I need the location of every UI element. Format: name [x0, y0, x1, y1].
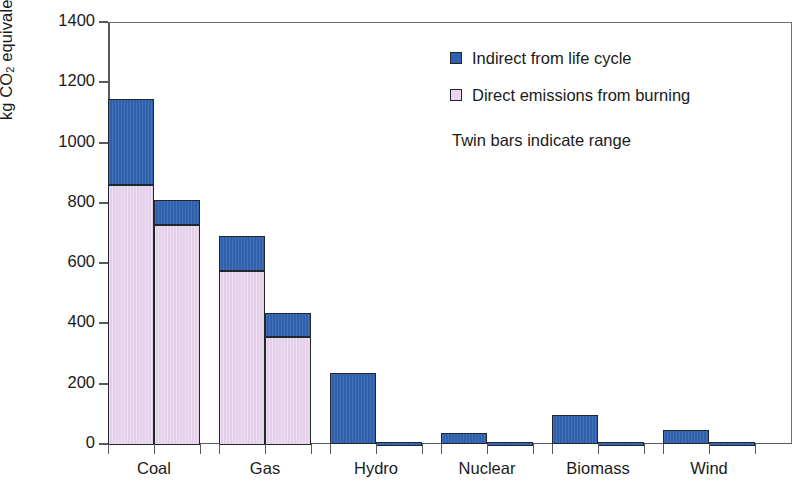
bar-segment-indirect: [265, 313, 311, 337]
bar-segment-indirect: [598, 442, 644, 446]
y-tick-label: 1400: [58, 11, 95, 30]
x-axis-label-gas: Gas: [250, 459, 280, 478]
x-tick-mark-icon: [598, 444, 599, 454]
x-axis-label-wind: Wind: [690, 459, 728, 478]
y-axis-title-mid: equivalent MWh: [0, 0, 15, 67]
y-tick-label: 400: [67, 312, 95, 331]
legend-item-direct: Direct emissions from burning: [450, 85, 690, 105]
legend-swatch-direct-icon: [450, 89, 462, 101]
y-tick-mark-icon: [99, 142, 108, 144]
x-tick-mark-icon: [709, 444, 710, 454]
bar-segment-indirect: [108, 99, 154, 185]
bar-segment-indirect: [663, 430, 709, 444]
x-axis-label-coal: Coal: [137, 459, 171, 478]
x-tick-mark-icon: [487, 444, 488, 454]
x-tick-mark-icon: [663, 444, 664, 454]
bar-segment-indirect: [154, 200, 200, 226]
x-tick-mark-icon: [154, 444, 155, 454]
x-tick-mark-icon: [330, 444, 331, 454]
x-tick-mark-icon: [552, 444, 553, 454]
x-tick-mark-icon: [265, 444, 266, 454]
bar-segment-indirect: [487, 442, 533, 446]
x-tick-mark-icon: [441, 444, 442, 454]
y-tick-label: 800: [67, 192, 95, 211]
x-axis-label-biomass: Biomass: [566, 459, 629, 478]
y-tick-mark-icon: [99, 322, 108, 324]
y-tick-label: 600: [67, 252, 95, 271]
x-tick-mark-icon: [644, 444, 645, 454]
y-axis-title: kg CO2 equivalent MWh−1: [0, 0, 16, 120]
bar-segment-direct: [154, 225, 200, 445]
co2-emissions-bar-chart: kg CO2 equivalent MWh−1 0200400600800100…: [0, 0, 806, 499]
bar-segment-indirect: [709, 442, 755, 446]
x-tick-mark-icon: [200, 444, 201, 454]
x-tick-mark-icon: [311, 444, 312, 454]
bar-segment-indirect: [219, 236, 265, 271]
legend: Indirect from life cycle Direct emission…: [450, 48, 690, 122]
y-tick-label: 200: [67, 373, 95, 392]
y-tick-mark-icon: [99, 202, 108, 204]
bar-segment-indirect: [552, 415, 598, 444]
bar-segment-direct: [265, 337, 311, 445]
legend-note: Twin bars indicate range: [452, 131, 631, 150]
bar-segment-indirect: [376, 442, 422, 446]
y-axis-title-pre: kg CO: [0, 73, 15, 120]
x-tick-mark-icon: [755, 444, 756, 454]
legend-label-direct: Direct emissions from burning: [472, 86, 690, 105]
bar-segment-direct: [108, 185, 154, 445]
x-tick-mark-icon: [422, 444, 423, 454]
x-tick-mark-icon: [376, 444, 377, 454]
y-tick-label: 1000: [58, 132, 95, 151]
bar-segment-indirect: [330, 373, 376, 444]
bar-segment-indirect: [441, 433, 487, 444]
y-tick-mark-icon: [99, 262, 108, 264]
x-tick-mark-icon: [219, 444, 220, 454]
y-tick-mark-icon: [99, 81, 108, 83]
legend-label-indirect: Indirect from life cycle: [472, 49, 632, 68]
legend-swatch-indirect-icon: [450, 52, 462, 64]
x-tick-mark-icon: [108, 444, 109, 454]
legend-item-indirect: Indirect from life cycle: [450, 48, 690, 68]
x-axis-label-hydro: Hydro: [354, 459, 398, 478]
x-axis-label-nuclear: Nuclear: [459, 459, 516, 478]
y-tick-mark-icon: [99, 443, 108, 445]
y-tick-mark-icon: [99, 21, 108, 23]
y-axis-title-sub: 2: [4, 67, 16, 73]
x-tick-mark-icon: [533, 444, 534, 454]
bar-segment-direct: [219, 271, 265, 445]
y-tick-label: 0: [86, 433, 95, 452]
y-tick-mark-icon: [99, 383, 108, 385]
y-tick-label: 1200: [58, 71, 95, 90]
